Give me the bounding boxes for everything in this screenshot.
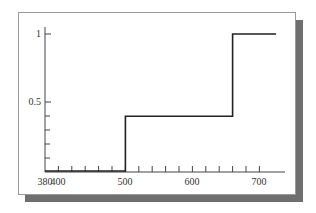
y-tick-label-1: 1 [36, 28, 41, 39]
x-tick-label-600: 600 [185, 176, 200, 187]
x-tick-label-500: 500 [118, 176, 133, 187]
chart-svg: 1 0.5 380 400 500 600 700 [0, 0, 316, 213]
y-tick-label-0.5: 0.5 [29, 96, 42, 107]
x-tick-label-700: 700 [252, 176, 267, 187]
y-ticks [45, 34, 51, 158]
x-tick-label-400: 400 [51, 176, 66, 187]
step-line [45, 34, 276, 171]
